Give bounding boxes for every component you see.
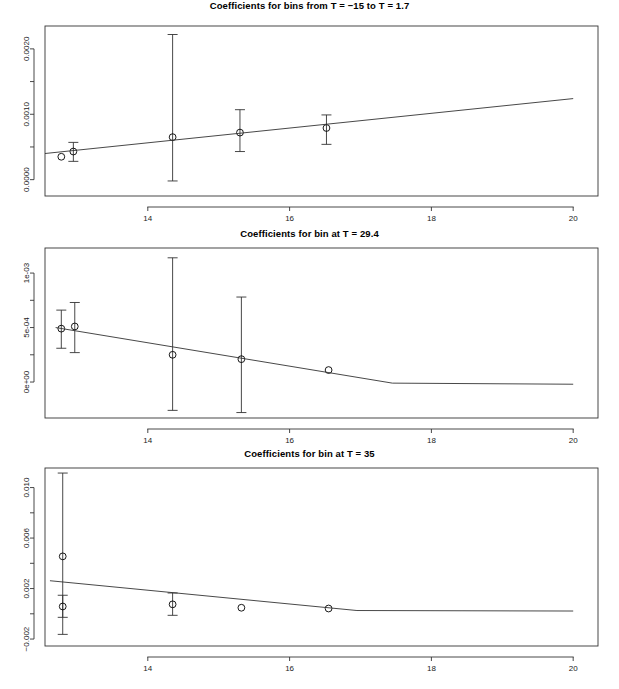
y-tick-label: 1e-03 — [23, 262, 32, 283]
x-tick-label: 20 — [569, 664, 578, 673]
y-tick-label: 5e-04 — [23, 317, 32, 338]
fitted-line — [56, 328, 574, 385]
chart-panel-2: Coefficients for bin at T = 29.4 1416182… — [0, 228, 619, 450]
plot-frame — [45, 248, 598, 418]
y-tick-label: 0.0010 — [23, 101, 32, 126]
data-point — [325, 605, 332, 612]
x-tick-label: 20 — [569, 436, 578, 445]
figure-canvas: Coefficients for bins from T = −15 to T … — [0, 0, 619, 689]
x-tick-label: 14 — [143, 436, 152, 445]
chart-panel-1: Coefficients for bins from T = −15 to T … — [0, 0, 619, 230]
x-tick-label: 18 — [427, 436, 436, 445]
x-tick-label: 16 — [285, 214, 294, 223]
y-tick-label: 0.002 — [23, 578, 32, 599]
plot-area: 14161820−0.0020.0020.0060.010 — [0, 448, 619, 689]
y-tick-label: 0.006 — [23, 528, 32, 549]
chart-panel-3: Coefficients for bin at T = 35 14161820−… — [0, 448, 619, 689]
x-tick-label: 18 — [427, 664, 436, 673]
y-tick-label: 0.010 — [23, 477, 32, 498]
x-tick-label: 14 — [143, 214, 152, 223]
data-point — [238, 604, 245, 611]
plot-area: 141618200e+005e-041e-03 — [0, 228, 619, 450]
data-point — [58, 153, 65, 160]
y-tick-label: 0.0020 — [23, 36, 32, 61]
fitted-line — [50, 581, 573, 611]
plot-frame — [45, 468, 598, 646]
y-tick-label: 0e+00 — [23, 370, 32, 393]
x-tick-label: 18 — [427, 214, 436, 223]
y-tick-label: 0.0000 — [23, 167, 32, 192]
plot-frame — [45, 26, 598, 196]
x-tick-label: 14 — [143, 664, 152, 673]
y-tick-label: −0.002 — [23, 626, 32, 651]
plot-area: 141618200.00000.00100.0020 — [0, 0, 619, 230]
x-tick-label: 16 — [285, 664, 294, 673]
x-tick-label: 20 — [569, 214, 578, 223]
x-tick-label: 16 — [285, 436, 294, 445]
fitted-line — [45, 99, 573, 154]
